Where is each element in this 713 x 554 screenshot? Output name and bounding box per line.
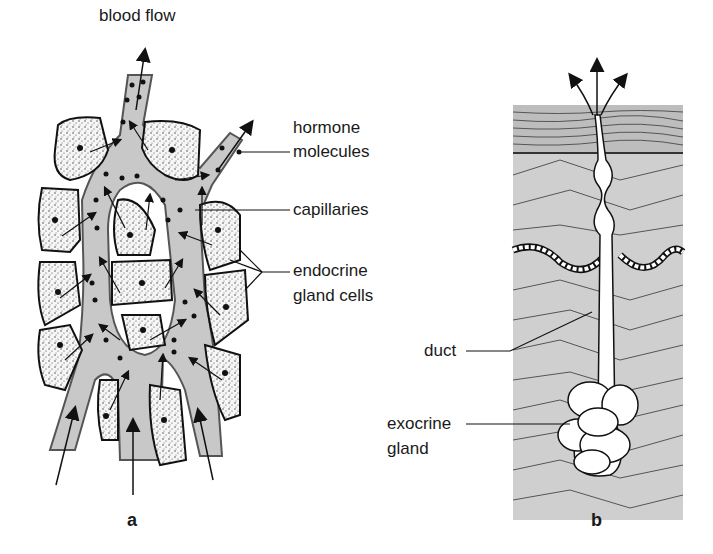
panel-letter-b: b	[591, 510, 602, 531]
label-duct: duct	[424, 341, 456, 361]
label-exocrine: exocrine	[387, 414, 451, 434]
label-gland-cells: gland cells	[293, 286, 373, 306]
label-molecules: molecules	[293, 142, 370, 162]
label-endocrine: endocrine	[293, 261, 368, 281]
label-gland: gland	[387, 439, 429, 459]
label-capillaries: capillaries	[293, 200, 369, 220]
label-hormone: hormone	[293, 118, 360, 138]
label-blood-flow: blood flow	[99, 6, 176, 26]
panel-letter-a: a	[127, 510, 137, 531]
